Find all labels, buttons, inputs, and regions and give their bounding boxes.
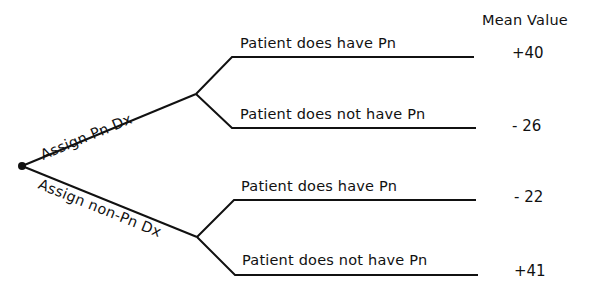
outcome-label-3: Patient does have Pn — [241, 178, 397, 194]
branch-assign-non-pn-dx — [22, 166, 197, 237]
outcome-label-4: Patient does not have Pn — [242, 252, 427, 268]
mean-value-1: +40 — [512, 44, 544, 62]
mean-value-header: Mean Value — [482, 12, 568, 28]
mean-value-2: - 26 — [512, 117, 541, 135]
outcome-label-1: Patient does have Pn — [240, 35, 396, 51]
outcome-label-2: Patient does not have Pn — [240, 106, 425, 122]
outcome-line-3 — [197, 200, 476, 237]
mean-value-4: +41 — [514, 262, 546, 280]
mean-value-3: - 22 — [514, 188, 543, 206]
outcome-line-1 — [196, 57, 474, 94]
